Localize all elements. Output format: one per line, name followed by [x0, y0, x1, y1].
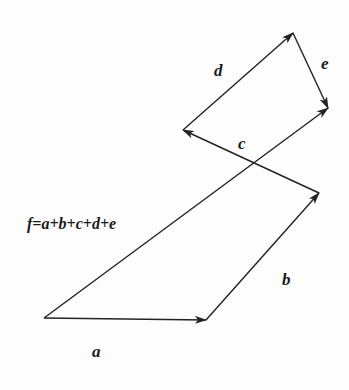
vector-d-arrow [183, 33, 293, 130]
vector-a-arrow [44, 318, 206, 320]
label-a: a [92, 343, 101, 360]
label-d: d [214, 62, 223, 79]
vector-b-arrow [206, 193, 319, 320]
vector-drawing [0, 0, 349, 390]
label-b: b [282, 271, 291, 288]
vector-c-arrow [183, 130, 319, 193]
equation-label: f=a+b+c+d+e [27, 216, 116, 232]
vector-diagram: d e c f=a+b+c+d+e b a [0, 0, 349, 390]
label-c: c [238, 135, 246, 152]
label-e: e [321, 55, 329, 72]
